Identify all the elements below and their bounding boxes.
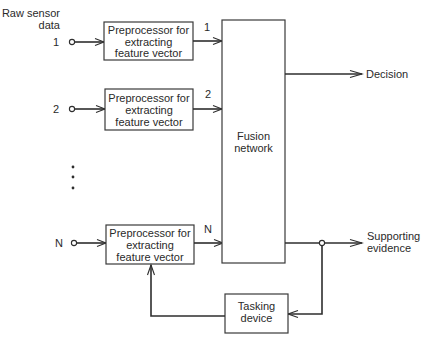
input-2: 2 (53, 103, 105, 115)
input-terminal-icon (69, 39, 74, 44)
tasking-line2: device (241, 312, 273, 324)
box-line3: feature vector (115, 116, 183, 128)
box-line3: feature vector (115, 47, 183, 59)
ellipsis-dots (72, 166, 75, 190)
header-line2: data (39, 19, 61, 31)
tasking-line1: Tasking (238, 300, 275, 312)
decision-output: Decision (285, 68, 408, 80)
input-terminal-icon (69, 106, 74, 111)
feature-label: 1 (204, 21, 210, 33)
supporting-evidence-output: Supporting evidence (285, 230, 420, 254)
box-line2: extracting (125, 104, 173, 116)
feature-link-2: 2 (193, 88, 222, 113)
box-line1: Preprocessor for (108, 92, 190, 104)
input-label: 1 (53, 36, 59, 48)
input-label: 2 (53, 103, 59, 115)
box-line1: Preprocessor for (108, 24, 190, 36)
input-terminal-icon (71, 240, 76, 245)
fusion-line1: Fusion (237, 130, 270, 142)
preprocessor-box-n: Preprocessor for extracting feature vect… (106, 225, 194, 264)
header-line1: Raw sensor (2, 7, 60, 19)
input-n: N (55, 237, 106, 249)
fusion-block-diagram: Raw sensor data 1 Preprocessor for extra… (0, 0, 426, 344)
tasking-device-box: Tasking device (225, 294, 288, 333)
tasking-control-path (148, 265, 226, 316)
box-line2: extracting (126, 239, 174, 251)
supporting-line2: evidence (367, 242, 411, 254)
preprocessor-box-2: Preprocessor for extracting feature vect… (105, 89, 193, 130)
feature-label: 2 (205, 88, 211, 100)
preprocessor-box-1: Preprocessor for extracting feature vect… (104, 22, 193, 60)
box-line3: feature vector (116, 251, 184, 263)
feature-label: N (204, 223, 212, 235)
fusion-network-box: Fusion network (222, 20, 285, 263)
decision-label: Decision (366, 68, 408, 80)
supporting-line1: Supporting (367, 230, 420, 242)
raw-sensor-data-header: Raw sensor data (2, 7, 61, 31)
fusion-line2: network (234, 142, 273, 154)
feature-link-n: N (194, 223, 223, 247)
input-label: N (55, 237, 63, 249)
feature-link-1: 1 (193, 21, 222, 45)
input-1: 1 (53, 36, 104, 48)
feedback-path (288, 240, 325, 317)
box-line1: Preprocessor for (109, 227, 191, 239)
junction-node-icon (319, 240, 324, 245)
